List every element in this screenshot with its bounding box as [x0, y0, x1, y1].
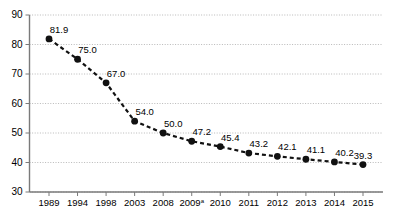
x-axis-labels-group: 198919941998200320082009a201020112012201…: [38, 192, 373, 208]
x-tick-label-2014: 2014: [324, 197, 345, 208]
data-point-2011[interactable]: [245, 150, 252, 157]
x-tick-label-2012: 2012: [267, 197, 288, 208]
y-tick-label-90: 90: [11, 9, 23, 20]
y-tick-label-30: 30: [11, 186, 23, 197]
x-tick-label-2013: 2013: [295, 197, 316, 208]
data-label-2012: 42.1: [278, 141, 297, 152]
y-tick-label-60: 60: [11, 98, 23, 109]
line-chart: 30405060708090198919941998200320082009a2…: [0, 0, 393, 224]
data-label-1989: 81.9: [50, 24, 69, 35]
data-point-2003[interactable]: [131, 118, 138, 125]
x-tick-label-1998: 1998: [96, 197, 117, 208]
data-point-1994[interactable]: [74, 56, 81, 63]
data-label-2015: 39.3: [354, 150, 373, 161]
data-label-1998: 67.0: [107, 68, 126, 79]
y-tick-label-70: 70: [11, 68, 23, 79]
x-tick-label-2015: 2015: [352, 197, 373, 208]
data-label-2011: 43.2: [250, 138, 269, 149]
data-point-1989[interactable]: [46, 35, 53, 42]
x-tick-label-2008: 2008: [153, 197, 174, 208]
data-point-2009[interactable]: [188, 138, 195, 145]
axes-group: [30, 15, 384, 192]
x-tick-label-2010: 2010: [210, 197, 231, 208]
data-label-2003: 54.0: [135, 106, 154, 117]
y-gridlines-group: 30405060708090: [11, 9, 383, 197]
x-tick-label-2009: 2009a: [179, 197, 204, 208]
y-tick-label-40: 40: [11, 157, 23, 168]
x-tick-label-2011: 2011: [239, 197, 259, 208]
data-label-2009: 47.2: [192, 126, 211, 137]
chart-canvas: 30405060708090198919941998200320082009a2…: [0, 0, 393, 224]
x-tick-label-1989: 1989: [38, 197, 59, 208]
data-point-2010[interactable]: [217, 143, 224, 150]
x-tick-label-2003: 2003: [124, 197, 145, 208]
data-label-2008: 50.0: [164, 118, 183, 129]
y-tick-label-80: 80: [11, 39, 23, 50]
data-label-1994: 75.0: [78, 44, 97, 55]
data-label-2014: 40.2: [335, 147, 354, 158]
data-label-2010: 45.4: [221, 132, 240, 143]
y-tick-label-50: 50: [11, 127, 23, 138]
x-tick-label-1994: 1994: [67, 197, 88, 208]
data-point-2012[interactable]: [274, 153, 281, 160]
data-label-2013: 41.1: [307, 144, 326, 155]
data-point-2013[interactable]: [303, 156, 310, 163]
data-point-2015[interactable]: [360, 161, 367, 168]
data-point-2014[interactable]: [331, 159, 338, 166]
data-point-1998[interactable]: [103, 79, 110, 86]
data-point-2008[interactable]: [160, 130, 167, 137]
